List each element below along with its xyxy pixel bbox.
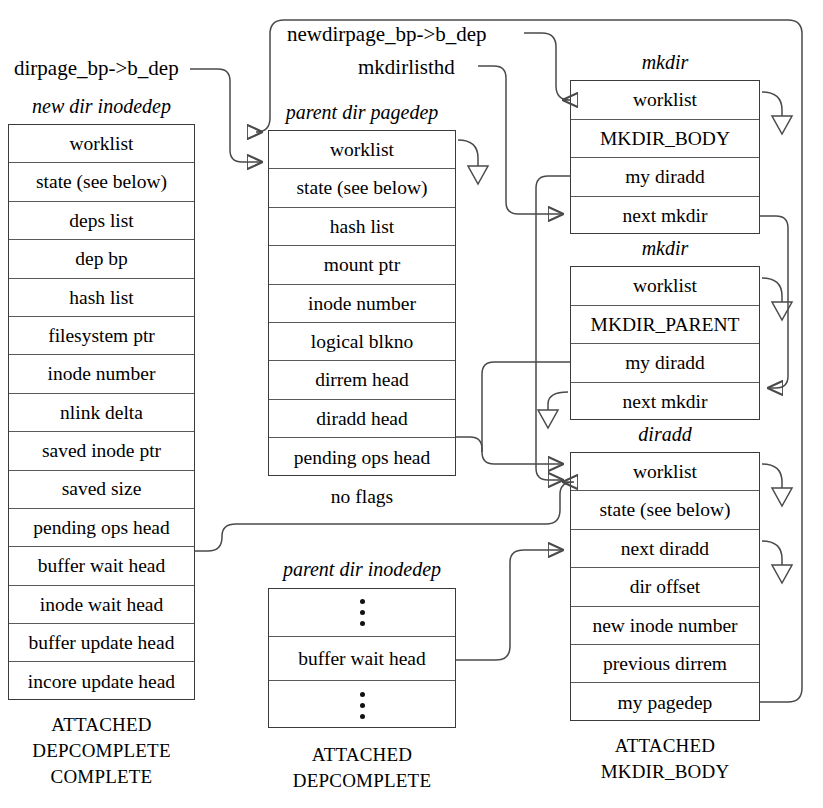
- field-state-flag: MKDIR_BODY: [571, 120, 759, 159]
- field-dir-offset: dir offset: [571, 568, 759, 606]
- open-arrow-diradd-next: [772, 565, 792, 583]
- caption-new-dir-inodedep: new dir inodedep: [8, 96, 195, 116]
- field-mount-ptr: mount ptr: [269, 246, 455, 284]
- struct-parent-dir-inodedep: buffer wait head: [268, 588, 456, 728]
- field-logical-blkno: logical blkno: [269, 323, 455, 361]
- field-deps-list: deps list: [9, 202, 194, 240]
- field-worklist: worklist: [269, 131, 455, 169]
- open-arrow-mkdir2-next: [538, 410, 558, 428]
- field-state: state (see below): [269, 169, 455, 207]
- wire-mkdirlisthd-to-mkdir1-next: [478, 66, 563, 214]
- open-arrow-diradd-worklist: [772, 488, 792, 506]
- field-hash-list: hash list: [269, 208, 455, 246]
- field-new-inode-number: new inode number: [571, 607, 759, 645]
- field-state: state (see below): [571, 491, 759, 529]
- field-incore-update-head: incore update head: [9, 662, 194, 700]
- flags-parent-dir-inodedep: ATTACHED DEPCOMPLETE: [268, 742, 456, 794]
- field-next-mkdir: next mkdir: [571, 383, 759, 422]
- struct-new-dir-inodedep: worklist state (see below) deps list dep…: [8, 124, 195, 700]
- flag-complete: COMPLETE: [8, 764, 195, 790]
- field-state: state (see below): [9, 163, 194, 201]
- field-my-diradd: my diradd: [571, 344, 759, 383]
- field-dep-bp: dep bp: [9, 240, 194, 278]
- flag-attached: ATTACHED: [570, 733, 760, 759]
- field-next-mkdir: next mkdir: [571, 197, 759, 236]
- subcaption-no-flags: no flags: [268, 486, 456, 508]
- field-inode-number: inode number: [269, 285, 455, 323]
- field-buffer-wait-head: buffer wait head: [269, 637, 455, 681]
- caption-parent-dir-pagedep: parent dir pagedep: [268, 102, 456, 122]
- wire-dirpage-to-pagedep: [190, 69, 262, 162]
- field-worklist: worklist: [571, 81, 759, 120]
- open-arrow-mkdir2-worklist: [772, 302, 792, 320]
- wire-diradd-next-self: [762, 541, 782, 565]
- flag-attached: ATTACHED: [268, 742, 456, 768]
- wire-diraddhead-stub: [456, 437, 482, 452]
- wire-pinodedep-to-nextdiradd: [456, 550, 563, 660]
- wire-mkdir2-diradd-to-diradd: [482, 362, 570, 464]
- flag-depcomplete: DEPCOMPLETE: [8, 738, 195, 764]
- struct-mkdir-parent: worklist MKDIR_PARENT my diradd next mkd…: [570, 266, 760, 420]
- field-buffer-update-head: buffer update head: [9, 624, 194, 662]
- wire-mkdir1-to-mkdir2: [760, 216, 788, 388]
- wire-mkdir1-worklist-self: [762, 92, 782, 116]
- field-my-diradd: my diradd: [571, 158, 759, 197]
- field-diradd-head: diradd head: [269, 400, 455, 438]
- field-state-flag: MKDIR_PARENT: [571, 306, 759, 345]
- field-worklist: worklist: [571, 267, 759, 306]
- field-worklist: worklist: [9, 125, 194, 163]
- field-buffer-wait-head: buffer wait head: [9, 547, 194, 585]
- wire-pagedep-worklist-self: [458, 140, 478, 166]
- caption-diradd: diradd: [570, 424, 760, 444]
- caption-mkdir-parent: mkdir: [570, 238, 760, 258]
- caption-mkdir-body: mkdir: [570, 52, 760, 72]
- field-ellipsis-top: [269, 589, 455, 637]
- wire-diradd-worklist-self: [762, 464, 782, 488]
- wire-mkdir1-diradd-to-diradd: [536, 176, 570, 480]
- field-pending-ops-head: pending ops head: [269, 438, 455, 476]
- field-saved-inode-ptr: saved inode ptr: [9, 432, 194, 470]
- pointer-label-newdirpage: newdirpage_bp->b_dep: [287, 24, 487, 45]
- field-inode-number: inode number: [9, 355, 194, 393]
- field-ellipsis-bottom: [269, 681, 455, 729]
- struct-mkdir-body: worklist MKDIR_BODY my diradd next mkdir: [570, 80, 760, 234]
- field-saved-size: saved size: [9, 471, 194, 509]
- field-dirrem-head: dirrem head: [269, 361, 455, 399]
- wire-mkdir2-worklist-self: [762, 278, 782, 302]
- flag-depcomplete: DEPCOMPLETE: [268, 768, 456, 794]
- flags-diradd: ATTACHED MKDIR_BODY: [570, 733, 760, 785]
- flag-attached: ATTACHED: [8, 712, 195, 738]
- flag-mkdir-body: MKDIR_BODY: [570, 759, 760, 785]
- struct-parent-dir-pagedep: worklist state (see below) hash list mou…: [268, 130, 456, 476]
- open-arrow-pagedep-worklist: [468, 166, 488, 184]
- wire-newdirpage-to-mkdir1: [524, 33, 570, 100]
- pointer-label-dirpage: dirpage_bp->b_dep: [14, 58, 179, 79]
- field-pending-ops-head: pending ops head: [9, 509, 194, 547]
- open-arrow-mkdir1-worklist: [772, 116, 792, 134]
- field-worklist: worklist: [571, 453, 759, 491]
- field-filesystem-ptr: filesystem ptr: [9, 317, 194, 355]
- flags-new-dir-inodedep: ATTACHED DEPCOMPLETE COMPLETE: [8, 712, 195, 790]
- field-hash-list: hash list: [9, 279, 194, 317]
- field-previous-dirrem: previous dirrem: [571, 645, 759, 683]
- field-my-pagedep: my pagedep: [571, 683, 759, 721]
- caption-parent-dir-inodedep: parent dir inodedep: [263, 559, 461, 579]
- diagram-canvas: dirpage_bp->b_dep newdirpage_bp->b_dep m…: [0, 0, 823, 808]
- field-inode-wait-head: inode wait head: [9, 586, 194, 624]
- field-next-diradd: next diradd: [571, 530, 759, 568]
- wire-mkdir2-next-open: [548, 392, 568, 410]
- wire-spacer: [456, 437, 528, 548]
- field-nlink-delta: nlink delta: [9, 394, 194, 432]
- pointer-label-mkdirlisthd: mkdirlisthd: [358, 57, 455, 78]
- struct-diradd: worklist state (see below) next diradd d…: [570, 452, 760, 721]
